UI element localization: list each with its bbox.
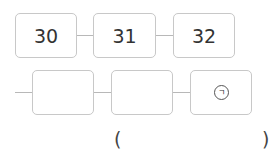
number-box-2: 31: [93, 13, 156, 58]
answer-close-paren: ): [262, 128, 269, 150]
connector-line: [77, 35, 93, 36]
number-value: 30: [34, 25, 58, 47]
connector-line: [15, 92, 32, 93]
number-value: 32: [192, 25, 216, 47]
answer-blank[interactable]: [128, 128, 258, 152]
circled-giyeok-icon: ㄱ: [214, 85, 229, 100]
blank-box-2: [111, 70, 173, 115]
connector-line: [173, 92, 190, 93]
number-value: 31: [112, 25, 136, 47]
blank-box-1: [32, 70, 94, 115]
number-box-1: 30: [15, 13, 77, 58]
connector-line: [156, 35, 173, 36]
number-box-3: 32: [173, 13, 235, 58]
target-box: ㄱ: [190, 70, 252, 115]
connector-line: [94, 92, 111, 93]
answer-open-paren: (: [114, 128, 121, 150]
